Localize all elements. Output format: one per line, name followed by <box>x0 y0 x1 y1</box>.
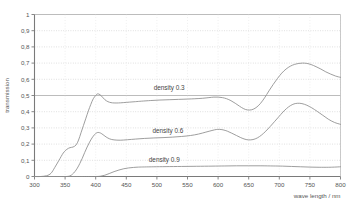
y-tick-label: 0,1 <box>21 157 30 164</box>
y-tick-label: 0,5 <box>21 92 30 99</box>
transmission-spectrum-chart: 300350400450500550600650700750800 00,10,… <box>0 0 353 202</box>
x-tick-label: 300 <box>29 181 40 188</box>
x-tick-label: 550 <box>182 181 193 188</box>
series-label: density 0.6 <box>152 127 183 135</box>
y-tick-label: 0,3 <box>21 124 30 131</box>
y-tick-label: 0,6 <box>21 76 30 83</box>
y-tick-label: 1 <box>26 11 30 18</box>
y-axis-tick-labels: 00,10,20,30,40,50,60,70,80,91 <box>21 11 30 180</box>
x-axis-tick-labels: 300350400450500550600650700750800 <box>29 181 346 188</box>
x-tick-label: 350 <box>60 181 71 188</box>
series-label: density 0.9 <box>149 156 180 164</box>
x-tick-label: 600 <box>213 181 224 188</box>
y-tick-label: 0,9 <box>21 27 30 34</box>
x-tick-label: 450 <box>121 181 132 188</box>
chart-canvas: 300350400450500550600650700750800 00,10,… <box>0 0 353 202</box>
x-axis-title: wave length / nm <box>293 192 341 199</box>
x-tick-label: 700 <box>274 181 285 188</box>
x-tick-label: 500 <box>152 181 163 188</box>
y-tick-label: 0,4 <box>21 108 30 115</box>
y-tick-label: 0,7 <box>21 59 30 66</box>
x-tick-label: 800 <box>335 181 346 188</box>
y-tick-label: 0,8 <box>21 43 30 50</box>
y-tick-label: 0 <box>26 173 30 180</box>
y-axis-title: transmission <box>3 78 10 113</box>
y-tick-label: 0,2 <box>21 140 30 147</box>
x-tick-label: 750 <box>305 181 316 188</box>
series-label: density 0.3 <box>154 84 185 92</box>
x-tick-label: 650 <box>244 181 255 188</box>
x-tick-label: 400 <box>91 181 102 188</box>
